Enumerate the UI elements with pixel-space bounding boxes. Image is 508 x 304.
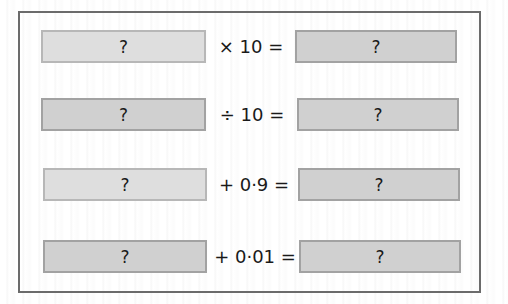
- output-box-row-2[interactable]: ?: [297, 98, 459, 131]
- operation-label-row-3: + 0·9 =: [214, 168, 294, 201]
- input-box-row-4[interactable]: ?: [43, 240, 207, 273]
- input-box-row-1[interactable]: ?: [41, 30, 206, 63]
- output-box-row-1[interactable]: ?: [295, 30, 457, 63]
- operation-label-row-1: × 10 =: [214, 30, 288, 63]
- operation-label-row-4: + 0·01 =: [212, 240, 298, 273]
- input-box-row-3[interactable]: ?: [43, 168, 207, 201]
- operation-label-row-2: ÷ 10 =: [214, 98, 290, 131]
- input-box-row-2[interactable]: ?: [41, 98, 206, 131]
- output-box-row-3[interactable]: ?: [298, 168, 460, 201]
- output-box-row-4[interactable]: ?: [299, 240, 461, 273]
